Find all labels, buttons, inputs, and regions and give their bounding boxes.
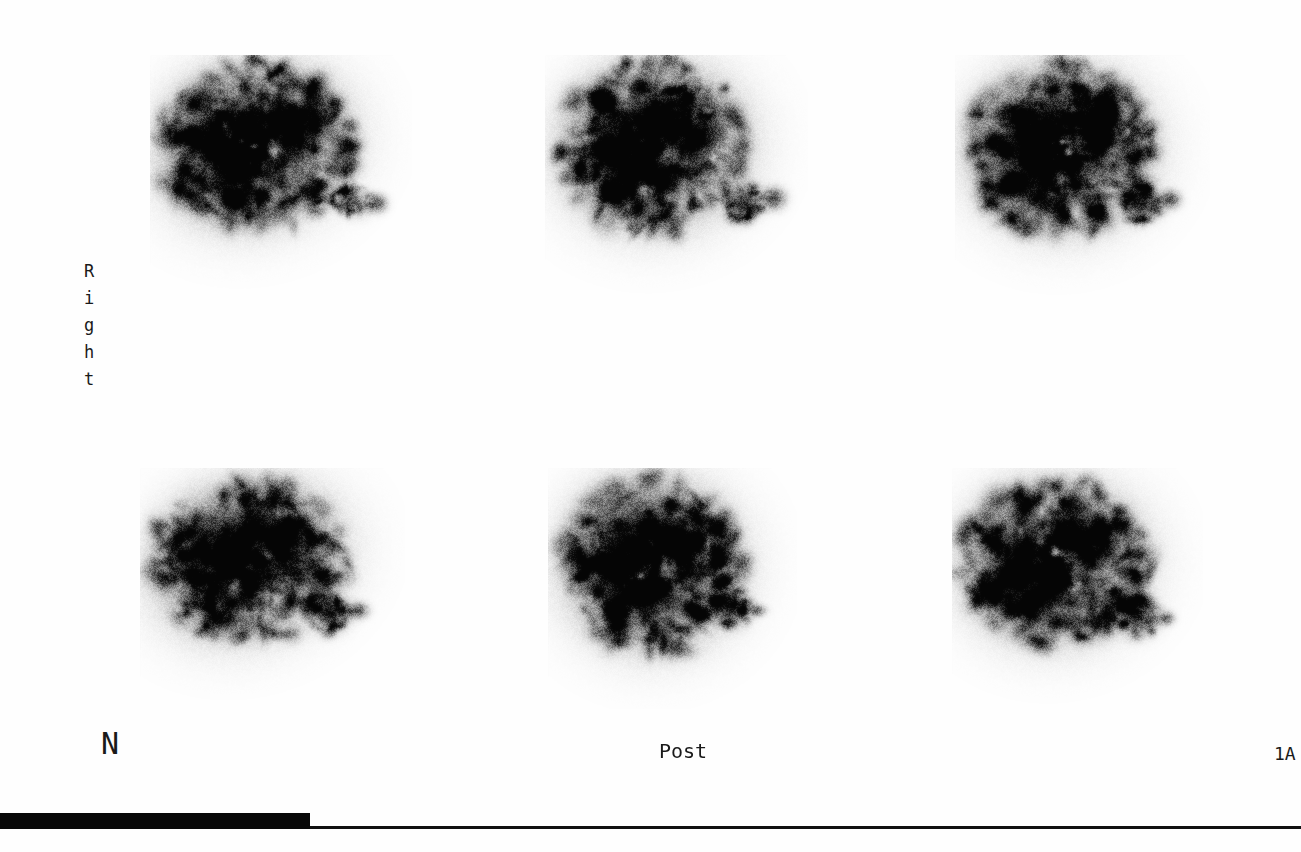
view-label-posterior: Post bbox=[659, 740, 707, 762]
exposure-scale-fill bbox=[0, 813, 310, 829]
scan-image-top-left[interactable] bbox=[150, 55, 450, 345]
scan-canvas-top-right bbox=[955, 55, 1255, 345]
scan-image-bottom-left[interactable] bbox=[140, 468, 440, 758]
scan-image-grid bbox=[0, 0, 1301, 790]
scan-canvas-top-center bbox=[545, 55, 845, 345]
orientation-letter: R bbox=[84, 258, 94, 285]
orientation-label-right: R i g h t bbox=[78, 258, 100, 393]
scan-image-bottom-center[interactable] bbox=[548, 468, 848, 758]
scintigraphy-film-viewer: R i g h t N Post 1A bbox=[0, 0, 1301, 852]
exposure-scale-bar[interactable] bbox=[0, 813, 1301, 829]
scan-image-bottom-right[interactable] bbox=[952, 468, 1252, 758]
scan-image-top-right[interactable] bbox=[955, 55, 1255, 345]
scan-canvas-bottom-right bbox=[952, 468, 1252, 758]
scan-image-top-center[interactable] bbox=[545, 55, 845, 345]
patient-marker-label: N bbox=[101, 729, 119, 759]
scan-canvas-top-left bbox=[150, 55, 450, 345]
orientation-letter: t bbox=[84, 366, 94, 393]
orientation-letter: g bbox=[84, 312, 94, 339]
scan-canvas-bottom-left bbox=[140, 468, 440, 758]
frame-number-label: 1A bbox=[1274, 744, 1296, 764]
scan-canvas-bottom-center bbox=[548, 468, 848, 758]
orientation-letter: h bbox=[84, 339, 94, 366]
orientation-letter: i bbox=[84, 285, 94, 312]
